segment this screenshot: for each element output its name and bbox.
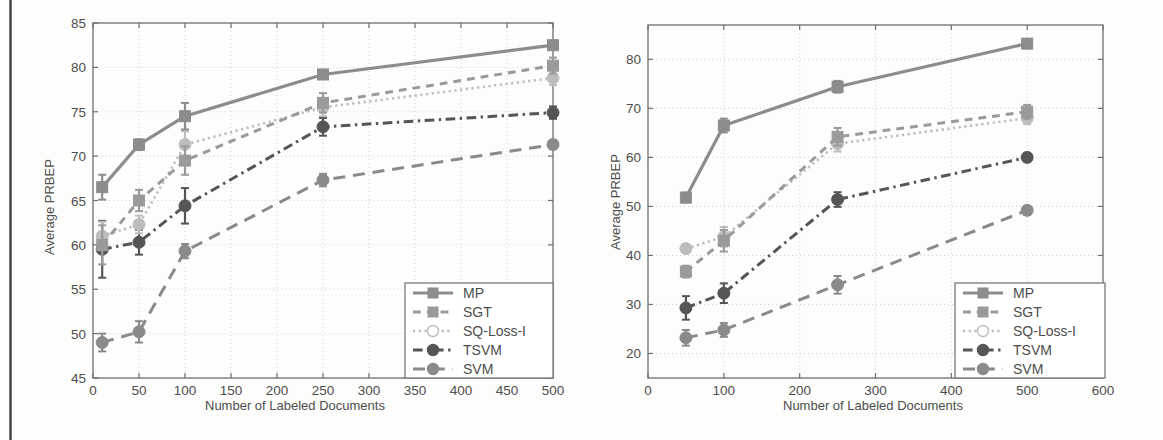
y-tick-label: 80 xyxy=(71,60,86,75)
data-point-marker xyxy=(133,326,145,338)
data-point-marker xyxy=(134,139,145,150)
y-tick-label: 30 xyxy=(626,297,641,312)
y-tick-label: 70 xyxy=(626,101,641,116)
y-tick-label: 20 xyxy=(626,346,641,361)
left-y-axis-label: Average PRBEP xyxy=(42,159,57,255)
data-point-marker xyxy=(680,266,691,277)
y-tick-label: 50 xyxy=(71,327,86,342)
data-point-marker xyxy=(832,131,843,142)
x-tick-label: 200 xyxy=(266,383,289,398)
legend-sample-marker xyxy=(978,307,988,317)
data-point-marker xyxy=(97,239,108,250)
data-point-marker xyxy=(718,235,729,246)
y-tick-label: 50 xyxy=(626,199,641,214)
y-tick-label: 80 xyxy=(626,52,641,67)
data-point-marker xyxy=(547,139,559,151)
x-tick-label: 400 xyxy=(940,383,963,398)
y-tick-label: 65 xyxy=(71,194,86,209)
series-mp xyxy=(680,38,1032,203)
data-point-marker xyxy=(133,218,145,230)
left-chart-panel: 0501001502002503003504004505004550556065… xyxy=(20,0,580,440)
data-point-marker xyxy=(680,332,692,344)
x-tick-label: 200 xyxy=(788,383,811,398)
x-tick-label: 0 xyxy=(89,383,97,398)
data-point-marker xyxy=(179,245,191,257)
legend-entry-label: SGT xyxy=(1013,304,1042,320)
legend-entry-label: TSVM xyxy=(1013,342,1052,358)
data-point-marker xyxy=(133,236,145,248)
data-point-marker xyxy=(1022,38,1033,49)
x-tick-label: 0 xyxy=(644,383,652,398)
legend-sample-marker xyxy=(428,326,439,337)
right-chart-panel: 010020030040050060020304050607080MPSGTSQ… xyxy=(583,0,1163,440)
series-line xyxy=(686,44,1027,198)
data-point-marker xyxy=(180,111,191,122)
data-point-marker xyxy=(1021,151,1033,163)
right-x-axis-label: Number of Labeled Documents xyxy=(783,398,963,413)
y-tick-label: 85 xyxy=(71,16,86,31)
series-sgt xyxy=(97,58,559,265)
data-point-marker xyxy=(680,243,692,255)
series-sgt xyxy=(680,105,1032,278)
data-point-marker xyxy=(548,40,559,51)
data-point-marker xyxy=(134,195,145,206)
data-point-marker xyxy=(680,192,691,203)
legend-entry-label: SVM xyxy=(463,361,493,377)
legend-entry-label: MP xyxy=(1013,285,1034,301)
scan-margin xyxy=(0,0,9,440)
x-tick-label: 400 xyxy=(450,383,473,398)
legend: MPSGTSQ-Loss-ITSVMSVM xyxy=(405,283,553,378)
scan-edge-line xyxy=(9,0,12,440)
data-point-marker xyxy=(318,69,329,80)
legend-sample-marker xyxy=(978,326,989,337)
series-line xyxy=(686,112,1027,272)
legend-sample-marker xyxy=(428,307,438,317)
data-point-marker xyxy=(317,121,329,133)
data-point-marker xyxy=(680,302,692,314)
y-tick-label: 40 xyxy=(626,248,641,263)
legend-sample-marker xyxy=(428,288,438,298)
data-point-marker xyxy=(97,182,108,193)
data-point-marker xyxy=(180,155,191,166)
series-line xyxy=(686,118,1027,248)
legend-entry-label: SVM xyxy=(1013,361,1043,377)
data-point-marker xyxy=(547,107,559,119)
right-y-axis-label: Average PRBEP xyxy=(608,154,623,250)
legend-sample-marker xyxy=(428,345,439,356)
data-point-marker xyxy=(718,120,729,131)
y-tick-label: 60 xyxy=(71,238,86,253)
legend-sample-marker xyxy=(978,364,989,375)
legend-entry-label: SGT xyxy=(463,304,492,320)
x-tick-label: 600 xyxy=(1092,383,1115,398)
data-point-marker xyxy=(318,97,329,108)
x-tick-label: 450 xyxy=(496,383,519,398)
data-point-marker xyxy=(179,200,191,212)
legend-sample-marker xyxy=(428,364,439,375)
x-tick-label: 300 xyxy=(864,383,887,398)
data-point-marker xyxy=(548,60,559,71)
legend-entry-label: SQ-Loss-I xyxy=(463,323,526,339)
series-line xyxy=(102,45,553,187)
left-x-axis-label: Number of Labeled Documents xyxy=(205,398,385,413)
data-point-marker xyxy=(1022,106,1033,117)
x-tick-label: 250 xyxy=(312,383,335,398)
y-tick-label: 55 xyxy=(71,282,86,297)
x-tick-label: 50 xyxy=(131,383,146,398)
y-tick-label: 70 xyxy=(71,149,86,164)
x-tick-label: 100 xyxy=(713,383,736,398)
legend-sample-marker xyxy=(978,288,988,298)
y-tick-label: 75 xyxy=(71,105,86,120)
figure-container: 0501001502002503003504004505004550556065… xyxy=(0,0,1163,440)
series-tsvm xyxy=(96,106,559,277)
data-point-marker xyxy=(832,194,844,206)
data-point-marker xyxy=(718,324,730,336)
x-tick-label: 100 xyxy=(174,383,197,398)
y-tick-label: 45 xyxy=(71,371,86,386)
data-point-marker xyxy=(96,337,108,349)
x-tick-label: 300 xyxy=(358,383,381,398)
x-tick-label: 150 xyxy=(220,383,243,398)
legend-entry-label: TSVM xyxy=(463,342,502,358)
data-point-marker xyxy=(718,287,730,299)
x-tick-label: 350 xyxy=(404,383,427,398)
left-chart-plot: 0501001502002503003504004505004550556065… xyxy=(20,0,580,440)
